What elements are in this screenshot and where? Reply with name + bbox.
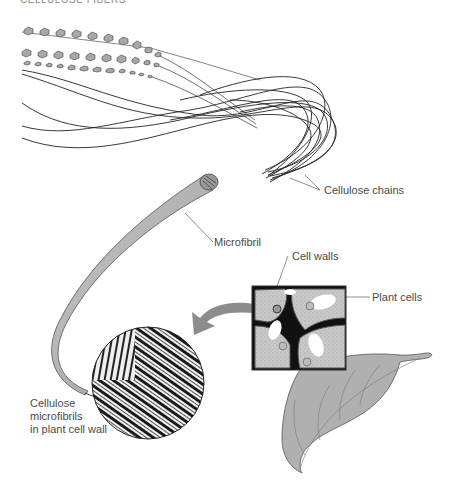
caption-line-3: in plant cell wall (30, 423, 107, 436)
leaf (282, 353, 432, 473)
label-cell-walls: Cell walls (292, 250, 338, 263)
label-microfibril: Microfibril (214, 236, 261, 249)
glucose-chains (22, 27, 257, 128)
micrograph-circle (90, 325, 210, 445)
label-plant-cells: Plant cells (372, 291, 422, 304)
caption-line-2: microfibrils (30, 410, 107, 423)
cellulose-strands (22, 70, 336, 182)
cell-box (252, 286, 346, 370)
label-cellulose-chains: Cellulose chains (324, 184, 404, 197)
label-micrograph-caption: Cellulose microfibrils in plant cell wal… (30, 397, 107, 436)
curved-arrow (192, 303, 255, 335)
caption-line-1: Cellulose (30, 397, 107, 410)
